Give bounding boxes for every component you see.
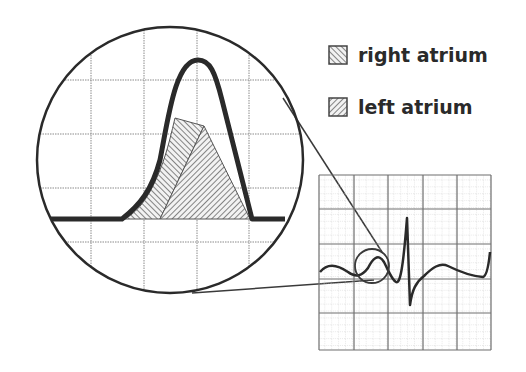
hatch-swatch-icon [329,46,347,64]
magnifier-grid [0,0,320,320]
hatch-swatch-icon [329,98,347,116]
legend-label: left atrium [358,96,472,118]
ecg-strip [319,175,491,350]
legend: right atrium left atrium [329,44,488,118]
p-wave-diagram: right atrium left atrium [0,0,526,372]
legend-item-right-atrium: right atrium [329,44,488,66]
legend-label: right atrium [358,44,488,66]
legend-item-left-atrium: left atrium [329,96,472,118]
magnifier [0,0,320,320]
